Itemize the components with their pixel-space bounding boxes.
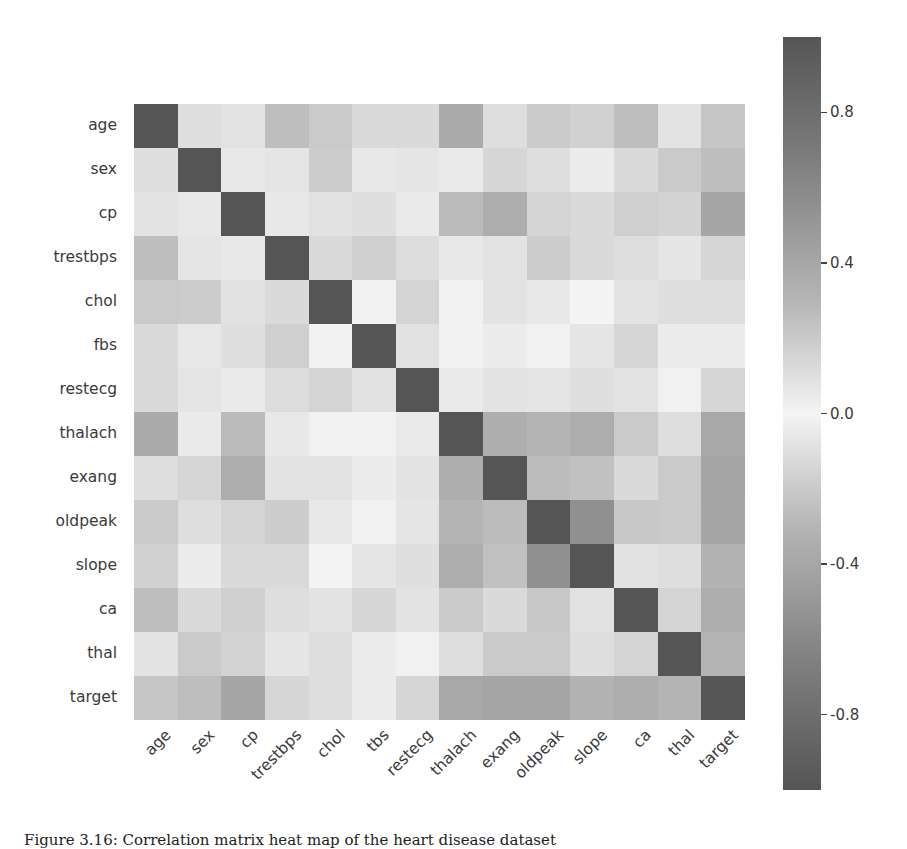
x-axis-label: ca [629,726,654,751]
y-axis-label: exang [0,469,117,485]
heatmap-cell [527,368,571,412]
heatmap-cell [265,368,309,412]
heatmap-cell [309,500,353,544]
y-axis-label: thal [0,645,117,661]
heatmap-cell [439,148,483,192]
heatmap-cell [178,544,222,588]
heatmap-cell [527,192,571,236]
colorbar-tick-label: 0.0 [830,405,854,423]
heatmap-cell [614,632,658,676]
heatmap-cell [701,368,745,412]
heatmap-cell [527,544,571,588]
heatmap-cell [527,500,571,544]
heatmap-cell [221,280,265,324]
heatmap-cell [527,280,571,324]
heatmap-cell [309,632,353,676]
heatmap-cell [265,412,309,456]
heatmap-cell [134,280,178,324]
x-axis-label: age [141,726,174,759]
heatmap-cell [134,236,178,280]
heatmap-cell [309,456,353,500]
heatmap-cell [396,324,440,368]
colorbar-tick: -0.4 [821,556,859,572]
x-axis-labels: agesexcptrestbpscholtbsrestecgthalachexa… [134,724,745,814]
heatmap-cell [396,544,440,588]
heatmap-cell [134,500,178,544]
heatmap-cell [658,632,702,676]
heatmap-cell [439,412,483,456]
heatmap-cell [221,148,265,192]
heatmap-cell [396,456,440,500]
heatmap-cell [570,280,614,324]
heatmap-cell [658,368,702,412]
heatmap-cell [309,676,353,720]
heatmap-cell [570,192,614,236]
heatmap-cell [178,500,222,544]
heatmap-cell [439,324,483,368]
heatmap-cell [614,368,658,412]
x-axis-label: target [696,726,742,772]
heatmap-cell [265,148,309,192]
heatmap-cell [134,192,178,236]
colorbar-tick-label: 0.4 [830,254,854,272]
heatmap-cell [439,236,483,280]
heatmap-cell [614,104,658,148]
heatmap-cell [265,324,309,368]
heatmap-cell [658,500,702,544]
heatmap-cell [439,192,483,236]
colorbar-tick: 0.0 [821,406,854,422]
heatmap-cell [309,544,353,588]
heatmap-cell [265,192,309,236]
heatmap-cell [352,324,396,368]
heatmap-cell [570,368,614,412]
heatmap-cell [134,588,178,632]
y-axis-label: target [0,689,117,705]
heatmap-cell [178,280,222,324]
heatmap-cell [439,676,483,720]
heatmap-cell [570,676,614,720]
colorbar-tick: 0.4 [821,255,854,271]
heatmap-cell [483,192,527,236]
heatmap-cell [221,236,265,280]
heatmap-cell [701,632,745,676]
heatmap-cell [483,544,527,588]
heatmap-cell [701,280,745,324]
heatmap-cell [527,412,571,456]
heatmap-cell [134,104,178,148]
heatmap-cell [701,148,745,192]
heatmap-cell [309,412,353,456]
y-axis-label: chol [0,293,117,309]
heatmap-cell [701,500,745,544]
heatmap-cell [614,412,658,456]
y-axis-label: fbs [0,337,117,353]
colorbar-tick-label: -0.4 [830,555,859,573]
heatmap-cell [309,588,353,632]
heatmap-cell [658,148,702,192]
heatmap-cell [614,588,658,632]
heatmap-cell [483,236,527,280]
heatmap-cell [221,368,265,412]
heatmap-cell [309,368,353,412]
tick-mark [821,112,827,114]
heatmap-cell [701,456,745,500]
heatmap-cell [265,104,309,148]
heatmap-cell [701,236,745,280]
heatmap-cell [439,280,483,324]
colorbar [783,37,821,790]
heatmap-cell [614,324,658,368]
tick-mark [821,413,827,415]
heatmap-cell [178,368,222,412]
heatmap-cell [396,588,440,632]
heatmap-cell [658,456,702,500]
heatmap-cell [396,104,440,148]
heatmap-cell [178,412,222,456]
heatmap-cell [658,236,702,280]
heatmap-cell [178,676,222,720]
heatmap-cell [352,280,396,324]
heatmap-cell [483,148,527,192]
heatmap-cell [483,368,527,412]
heatmap-cell [570,544,614,588]
heatmap-cell [396,236,440,280]
heatmap-cell [221,500,265,544]
heatmap-cell [527,588,571,632]
